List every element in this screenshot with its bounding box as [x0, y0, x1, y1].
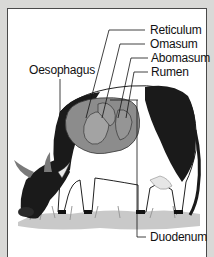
label-reticulum: Reticulum — [150, 24, 202, 36]
label-oesophagus: Oesophagus — [29, 64, 95, 76]
grass — [18, 206, 200, 230]
label-omasum: Omasum — [150, 38, 197, 50]
label-abomasum: Abomasum — [151, 52, 210, 64]
label-rumen: Rumen — [151, 66, 189, 78]
label-duodenum: Duodenum — [150, 231, 207, 243]
